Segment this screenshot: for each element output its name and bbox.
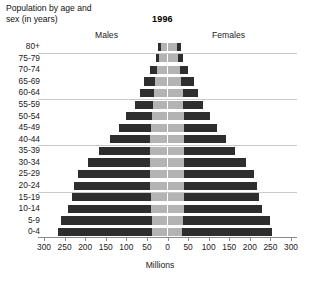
center-divider bbox=[167, 122, 169, 134]
female-bar bbox=[168, 89, 199, 97]
female-bar bbox=[168, 135, 226, 143]
female-developed-segment bbox=[168, 112, 184, 120]
male-bar bbox=[78, 170, 168, 178]
male-developing-segment bbox=[88, 158, 151, 166]
male-bar bbox=[110, 135, 168, 143]
center-divider bbox=[167, 111, 169, 123]
male-developed-segment bbox=[152, 228, 168, 236]
x-axis-title: Millions bbox=[0, 260, 320, 270]
center-divider bbox=[167, 203, 169, 215]
female-developed-segment bbox=[168, 54, 179, 62]
pyramid-row: 50-54 bbox=[44, 111, 291, 123]
pyramid-row: 55-59 bbox=[44, 99, 291, 111]
age-group-label: 25-29 bbox=[0, 168, 40, 179]
female-bar bbox=[168, 182, 258, 190]
male-developing-segment bbox=[74, 182, 150, 190]
center-divider bbox=[167, 64, 169, 76]
pyramid-row: 5-9 bbox=[44, 215, 291, 227]
female-developing-segment bbox=[183, 101, 203, 109]
male-bar bbox=[135, 101, 168, 109]
gridline bbox=[38, 53, 297, 54]
pyramid-row: 30-34 bbox=[44, 157, 291, 169]
female-bar bbox=[168, 54, 184, 62]
female-developed-segment bbox=[168, 170, 185, 178]
x-axis-tick bbox=[209, 238, 210, 241]
male-developing-segment bbox=[110, 135, 150, 143]
male-developed-segment bbox=[155, 77, 167, 85]
female-bar bbox=[168, 193, 259, 201]
center-divider bbox=[167, 192, 169, 204]
female-bar bbox=[168, 124, 218, 132]
x-axis: 30025020015010050050100150200250300 bbox=[44, 238, 291, 252]
pyramid-row: 15-19 bbox=[44, 192, 291, 204]
age-group-label: 60-64 bbox=[0, 87, 40, 98]
female-developing-segment bbox=[184, 135, 225, 143]
female-developing-segment bbox=[184, 170, 254, 178]
female-bar bbox=[168, 147, 236, 155]
female-developing-segment bbox=[184, 205, 263, 213]
pyramid-row: 70-74 bbox=[44, 64, 291, 76]
male-bar bbox=[99, 147, 167, 155]
center-divider bbox=[167, 99, 169, 111]
male-developed-segment bbox=[151, 205, 167, 213]
x-axis-tick bbox=[106, 238, 107, 241]
male-developed-segment bbox=[152, 112, 168, 120]
center-divider bbox=[167, 53, 169, 65]
female-developed-segment bbox=[168, 43, 177, 51]
x-axis-tick bbox=[270, 238, 271, 241]
male-developed-segment bbox=[151, 124, 167, 132]
chart-title: Population by age andsex (in years) bbox=[6, 3, 92, 24]
chart-title-line1: Population by age and bbox=[6, 3, 92, 13]
female-developed-segment bbox=[168, 124, 184, 132]
female-developing-segment bbox=[184, 158, 245, 166]
female-developed-segment bbox=[168, 147, 185, 155]
male-bar bbox=[72, 193, 168, 201]
center-divider bbox=[167, 145, 169, 157]
pyramid-row: 45-49 bbox=[44, 122, 291, 134]
male-bar bbox=[150, 66, 167, 74]
male-developing-segment bbox=[58, 228, 152, 236]
female-bar bbox=[168, 205, 263, 213]
male-developing-segment bbox=[99, 147, 150, 155]
female-developing-segment bbox=[181, 77, 193, 85]
x-axis-ticklabel: 300 bbox=[277, 242, 305, 252]
male-bar bbox=[68, 205, 167, 213]
male-developing-segment bbox=[119, 124, 151, 132]
female-bar bbox=[168, 77, 194, 85]
female-bar bbox=[168, 216, 270, 224]
female-bar bbox=[168, 66, 189, 74]
male-developing-segment bbox=[144, 77, 155, 85]
age-group-label: 45-49 bbox=[0, 122, 40, 133]
female-developed-segment bbox=[168, 182, 185, 190]
female-developing-segment bbox=[184, 147, 235, 155]
x-axis-tick bbox=[147, 238, 148, 241]
center-divider bbox=[167, 76, 169, 88]
male-developed-segment bbox=[150, 147, 167, 155]
age-group-label: 50-54 bbox=[0, 111, 40, 122]
x-axis-tick bbox=[44, 238, 45, 241]
male-developing-segment bbox=[68, 205, 151, 213]
male-developing-segment bbox=[126, 112, 152, 120]
female-bar bbox=[168, 170, 255, 178]
age-group-label: 40-44 bbox=[0, 134, 40, 145]
gridline bbox=[38, 99, 297, 100]
female-developed-segment bbox=[168, 205, 184, 213]
male-developed-segment bbox=[150, 158, 167, 166]
female-developed-segment bbox=[168, 89, 183, 97]
center-divider bbox=[167, 168, 169, 180]
center-divider bbox=[167, 134, 169, 146]
female-bar bbox=[168, 228, 273, 236]
age-group-label: 75-79 bbox=[0, 53, 40, 64]
center-divider bbox=[167, 41, 169, 53]
male-developed-segment bbox=[151, 193, 168, 201]
x-axis-tick bbox=[250, 238, 251, 241]
female-developing-segment bbox=[177, 43, 182, 51]
x-axis-tick bbox=[291, 238, 292, 241]
female-developing-segment bbox=[183, 89, 199, 97]
male-developing-segment bbox=[78, 170, 150, 178]
female-bar bbox=[168, 112, 211, 120]
male-bar bbox=[61, 216, 168, 224]
x-axis-tick bbox=[65, 238, 66, 241]
age-group-label: 30-34 bbox=[0, 157, 40, 168]
center-divider bbox=[167, 157, 169, 169]
